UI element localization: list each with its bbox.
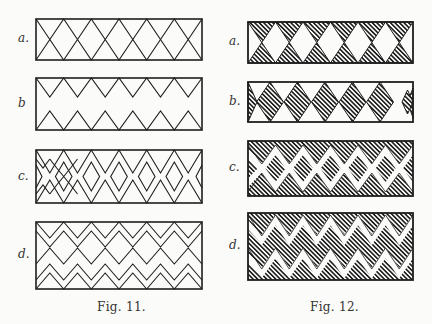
fig12-label-d: d. bbox=[229, 238, 241, 252]
figure-drawings bbox=[0, 0, 432, 324]
fig12-panel-c bbox=[244, 141, 417, 196]
fig12-label-c: c. bbox=[229, 160, 240, 174]
fig11-caption: Fig. 11. bbox=[97, 300, 146, 314]
fig12-caption: Fig. 12. bbox=[310, 300, 359, 314]
fig11-label-d: d. bbox=[18, 247, 30, 261]
fig12-panel-d bbox=[244, 213, 417, 280]
fig12-label-b: b. bbox=[229, 94, 241, 108]
fig12-panel-b bbox=[248, 82, 413, 122]
fig11-label-a: a. bbox=[18, 31, 29, 45]
fig11-panel-a bbox=[36, 19, 202, 60]
fig12-panel-a bbox=[248, 22, 413, 63]
fig12-label-a: a. bbox=[229, 34, 240, 48]
fig11-label-c: c. bbox=[18, 169, 29, 183]
fig11-panel-c bbox=[36, 150, 202, 203]
fig11-panel-d bbox=[36, 222, 202, 289]
fig11-panel-b bbox=[36, 78, 202, 130]
fig11-label-b: b bbox=[18, 96, 26, 110]
